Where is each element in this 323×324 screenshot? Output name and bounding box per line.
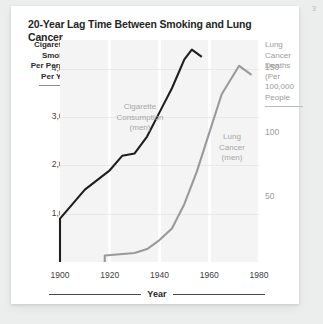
x-axis-tick-label: 1940 [140,270,180,280]
annotation-lung-cancer: Lung Cancer (men) [203,132,261,164]
x-axis-rule-right [173,294,265,295]
page-number-marker: 3 [312,5,316,12]
annotation-lung-cancer-text: Lung Cancer (men) [219,132,245,162]
right-axis-caption-rule [265,106,303,107]
chart-card: 20-Year Lag Time Between Smoking and Lun… [11,6,299,304]
x-axis-tick-label: 1980 [239,270,279,280]
x-axis-title-row: Year [49,289,265,299]
x-axis-rule-left [49,294,141,295]
x-axis-title: Year [147,289,166,299]
series-line-cigarette-consumption [60,50,202,262]
annotation-cigarette-text: Cigarette Consumption (men) [116,102,163,132]
series-line-lung-cancer [105,66,252,262]
x-axis-tick-label: 1900 [40,270,80,280]
axis-tick-label: 50 [265,191,309,201]
chart-page: 3 20-Year Lag Time Between Smoking and L… [0,0,323,324]
x-axis-tick-label: 1960 [189,270,229,280]
annotation-cigarette-consumption: Cigarette Consumption (men) [99,102,181,134]
axis-tick-label: 150 [265,62,309,72]
axis-tick-label: 100 [265,127,309,137]
x-axis-tick-label: 1920 [90,270,130,280]
